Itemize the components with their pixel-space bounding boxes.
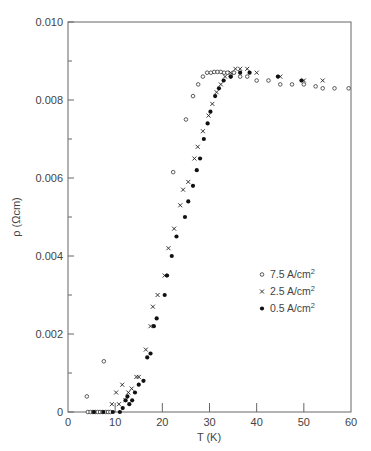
data-point — [127, 402, 131, 406]
data-point — [314, 85, 318, 89]
x-axis-title: T (K) — [197, 431, 221, 443]
data-point — [181, 188, 185, 192]
data-point — [123, 398, 127, 402]
data-point — [151, 305, 155, 309]
y-axis-title: ρ (Ωcm) — [10, 197, 22, 237]
series-open-circle — [85, 70, 350, 414]
data-point — [278, 83, 282, 87]
data-point — [166, 246, 170, 250]
legend-label: 0.5 A/cm2 — [270, 301, 315, 314]
x-tick-label: 60 — [345, 416, 357, 428]
legend-marker-filled-circle — [260, 306, 264, 310]
data-point — [255, 71, 259, 75]
y-tick-label: 0 — [57, 406, 63, 418]
data-point — [126, 391, 130, 395]
data-point — [217, 86, 221, 90]
data-point — [202, 137, 206, 141]
data-point — [178, 203, 182, 207]
data-point — [232, 71, 236, 75]
x-tick-label: 0 — [65, 416, 71, 428]
data-point — [191, 184, 195, 188]
data-point — [137, 383, 141, 387]
data-point — [201, 75, 205, 79]
data-point — [174, 234, 178, 238]
x-tick-label: 30 — [203, 416, 215, 428]
data-point — [276, 75, 280, 79]
data-point — [229, 75, 233, 79]
data-point — [120, 383, 124, 387]
data-point — [170, 254, 174, 258]
data-point — [195, 168, 199, 172]
data-point — [299, 78, 303, 82]
x-tick-label: 40 — [251, 416, 263, 428]
data-point — [238, 75, 242, 79]
data-point — [333, 87, 337, 91]
x-tick-label: 20 — [156, 416, 168, 428]
data-point — [321, 79, 325, 83]
data-point — [156, 293, 160, 297]
data-point — [114, 391, 118, 395]
data-point — [133, 390, 137, 394]
data-point — [171, 170, 175, 174]
plot-frame — [68, 22, 351, 412]
data-point — [290, 83, 294, 87]
legend-label: 7.5 A/cm2 — [270, 267, 315, 280]
data-point — [186, 180, 190, 184]
data-point — [152, 324, 156, 328]
data-point — [245, 75, 249, 79]
legend-label: 2.5 A/cm2 — [270, 284, 315, 297]
y-tick-label: 0.004 — [35, 250, 63, 262]
data-point — [233, 67, 237, 71]
data-point — [130, 398, 134, 402]
data-point — [196, 83, 200, 87]
data-point — [92, 410, 96, 414]
data-point — [186, 199, 190, 203]
data-point — [223, 75, 227, 79]
data-point — [155, 316, 159, 320]
data-point — [198, 156, 202, 160]
data-point — [141, 379, 145, 383]
legend-marker-open-circle — [260, 273, 264, 277]
data-point — [213, 94, 217, 98]
data-point — [145, 355, 149, 359]
data-point — [163, 293, 167, 297]
data-point — [245, 67, 249, 71]
data-point — [196, 145, 200, 149]
data-point — [207, 114, 211, 118]
data-point — [101, 410, 105, 414]
legend-marker-cross — [260, 290, 264, 294]
data-point — [347, 87, 351, 91]
data-point — [118, 410, 122, 414]
data-point — [255, 79, 259, 83]
data-point — [165, 273, 169, 277]
data-point — [130, 387, 134, 391]
data-point — [226, 71, 230, 75]
data-point — [111, 410, 115, 414]
resistivity-vs-temperature-chart: 0102030405060 00.0020.0040.0060.0080.010… — [0, 0, 371, 451]
data-point — [183, 215, 187, 219]
data-point — [192, 157, 196, 161]
x-tick-label: 10 — [109, 416, 121, 428]
y-tick-label: 0.008 — [35, 94, 63, 106]
data-point — [144, 348, 148, 352]
series-filled-circle — [92, 71, 304, 415]
data-point — [321, 87, 325, 91]
data-point — [125, 394, 129, 398]
data-point — [215, 90, 219, 94]
data-point — [302, 83, 306, 87]
data-point — [201, 129, 205, 133]
data-point — [191, 94, 195, 98]
data-point — [238, 71, 242, 75]
y-tick-label: 0.010 — [35, 16, 63, 28]
x-axis-ticks: 0102030405060 — [65, 403, 357, 428]
data-point — [208, 110, 212, 114]
data-point — [206, 121, 210, 125]
legend: 7.5 A/cm22.5 A/cm20.5 A/cm2 — [260, 267, 315, 314]
data-point — [121, 406, 125, 410]
data-point — [110, 402, 114, 406]
data-point — [205, 71, 209, 75]
data-point — [238, 67, 242, 71]
y-tick-label: 0.002 — [35, 328, 63, 340]
series-cross — [110, 67, 325, 406]
data-point — [102, 360, 106, 364]
